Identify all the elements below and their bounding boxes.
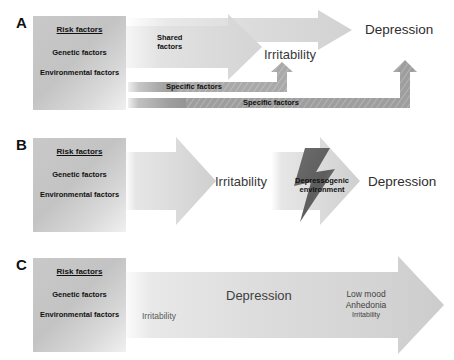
- risk-factor-genetic: Genetic factors: [52, 290, 107, 299]
- risk-factor-genetic: Genetic factors: [52, 48, 107, 57]
- risk-factors-title: Risk factors: [57, 267, 103, 276]
- panel-letter-a: A: [16, 14, 27, 31]
- risk-factor-environmental: Environmental factors: [40, 190, 119, 199]
- panel-letter-c: C: [16, 256, 27, 273]
- symptom-irritability: Irritability: [330, 310, 402, 321]
- symptom-low-mood: Low mood: [330, 289, 402, 300]
- risk-factors-title: Risk factors: [57, 147, 103, 156]
- irritability-label-a: Irritability: [264, 47, 316, 62]
- shared-factors-label: Shared factors: [157, 33, 182, 51]
- risk-factors-box-a-content: Risk factors Genetic factors Environment…: [33, 16, 126, 110]
- panel-letter-b: B: [16, 136, 27, 153]
- risk-factor-environmental: Environmental factors: [40, 68, 119, 77]
- risk-factors-box-b-content: Risk factors Genetic factors Environment…: [33, 138, 126, 232]
- irritability-label-b: Irritability: [215, 174, 267, 189]
- irritability-label-c: Irritability: [142, 311, 176, 321]
- specific-factors-label-1: Specific factors: [166, 82, 222, 91]
- figure-canvas: A Risk factors Genetic factors Environme…: [0, 0, 454, 360]
- risk-factor-environmental: Environmental factors: [40, 310, 119, 319]
- depressogenic-environment-label: Depressogenic environment: [291, 176, 353, 194]
- risk-factors-box-c-content: Risk factors Genetic factors Environment…: [33, 258, 126, 352]
- risk-to-irritability-arrow: [125, 137, 216, 225]
- symptom-anhedonia: Anhedonia: [330, 300, 402, 311]
- risk-factors-title: Risk factors: [57, 25, 103, 34]
- depression-symptoms-list: Low mood Anhedonia Irritability: [330, 289, 402, 321]
- risk-factor-genetic: Genetic factors: [52, 170, 107, 179]
- depression-label-b: Depression: [368, 174, 436, 189]
- depression-label-c: Depression: [226, 288, 292, 303]
- specific-factors-label-2: Specific factors: [243, 98, 299, 107]
- depression-label-a: Depression: [365, 22, 433, 37]
